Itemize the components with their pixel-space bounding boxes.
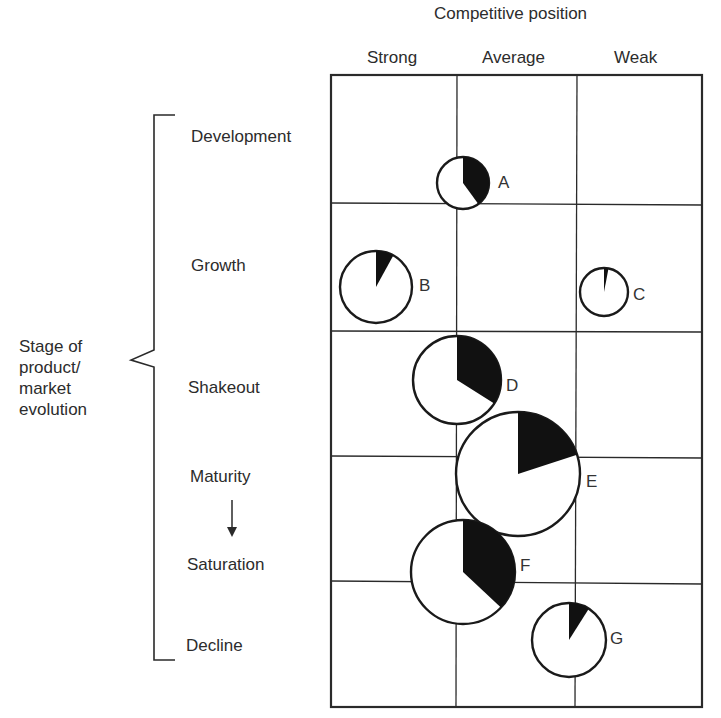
bubble-label-a: A [498,173,509,193]
bubble-e [456,412,580,536]
bubble-label-d: D [506,376,518,396]
brace-icon [131,115,175,660]
bubble-label-g: G [610,629,623,649]
bubble-label-b: B [419,276,430,296]
bubble-label-f: F [520,556,530,576]
bubble-b [340,251,412,323]
bubble-label-c: C [633,285,645,305]
arrow-down-icon [227,500,237,537]
bubble-c [580,268,628,316]
matrix-chart [0,0,721,718]
bubble-d [413,336,501,424]
bubble-f [411,520,515,624]
bubble-label-e: E [586,472,597,492]
bubble-g [532,603,606,677]
bubble-a [437,157,489,209]
